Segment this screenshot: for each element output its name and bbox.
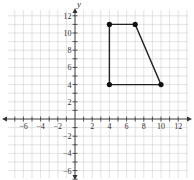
- y-tick-label: 10: [64, 29, 72, 38]
- y-tick-label: −4: [63, 149, 72, 158]
- x-tick-label: 8: [142, 122, 146, 131]
- axes: −6−4−224681012−6−4−224681012y: [2, 0, 192, 180]
- y-tick-label: 12: [64, 12, 72, 21]
- x-tick-label: −6: [19, 122, 28, 131]
- y-tick-label: 4: [68, 81, 72, 90]
- vertex-point: [107, 22, 112, 27]
- vertex-point: [133, 22, 138, 27]
- x-axis-right-arrow-icon: [187, 117, 192, 122]
- x-tick-label: 10: [157, 122, 165, 131]
- x-tick-label: 2: [90, 122, 94, 131]
- vertex-point: [158, 82, 163, 87]
- x-tick-label: −4: [36, 122, 45, 131]
- x-axis-left-arrow-icon: [2, 117, 7, 122]
- x-tick-label: −2: [54, 122, 63, 131]
- x-tick-label: 4: [107, 122, 111, 131]
- y-tick-label: 2: [68, 98, 72, 107]
- x-tick-label: 6: [125, 122, 129, 131]
- y-tick-label: −2: [63, 132, 72, 141]
- y-tick-label: −6: [63, 167, 72, 176]
- y-axis-label: y: [76, 0, 81, 9]
- y-tick-label: 8: [68, 46, 72, 55]
- x-tick-label: 12: [174, 122, 182, 131]
- coordinate-plane: −6−4−224681012−6−4−224681012y: [0, 0, 194, 180]
- grid: [8, 10, 188, 178]
- y-tick-label: 6: [68, 63, 72, 72]
- vertex-point: [107, 82, 112, 87]
